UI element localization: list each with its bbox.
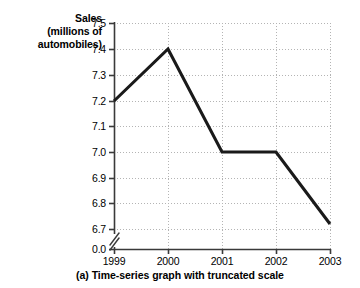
y-tick-label-7-1: 7.1 bbox=[76, 121, 106, 132]
y-tick-label-6-7: 6.7 bbox=[76, 224, 106, 235]
grid-vertical bbox=[169, 23, 331, 249]
y-tick-label-7-0: 7.0 bbox=[76, 147, 106, 158]
y-tick-label-7-5: 7.5 bbox=[76, 18, 106, 29]
y-tick-label-7-2: 7.2 bbox=[76, 96, 106, 107]
figure-caption: (a) Time-series graph with truncated sca… bbox=[0, 269, 360, 281]
y-tick-label-7-4: 7.4 bbox=[76, 44, 106, 55]
y-tick-label-0-0: 0.0 bbox=[76, 244, 106, 255]
x-tick-label-1999: 1999 bbox=[91, 256, 137, 267]
plot-area bbox=[0, 0, 360, 288]
figure-time-series-truncated-scale: Sales (millions of automobiles) bbox=[0, 0, 360, 288]
y-axis-ticks bbox=[109, 24, 114, 250]
grid-horizontal bbox=[114, 24, 331, 230]
x-tick-label-2001: 2001 bbox=[199, 256, 245, 267]
y-tick-label-6-8: 6.8 bbox=[76, 198, 106, 209]
x-tick-label-2003: 2003 bbox=[307, 256, 353, 267]
y-tick-label-7-3: 7.3 bbox=[76, 70, 106, 81]
x-tick-label-2002: 2002 bbox=[253, 256, 299, 267]
y-tick-label-6-9: 6.9 bbox=[76, 173, 106, 184]
x-tick-label-2000: 2000 bbox=[145, 256, 191, 267]
